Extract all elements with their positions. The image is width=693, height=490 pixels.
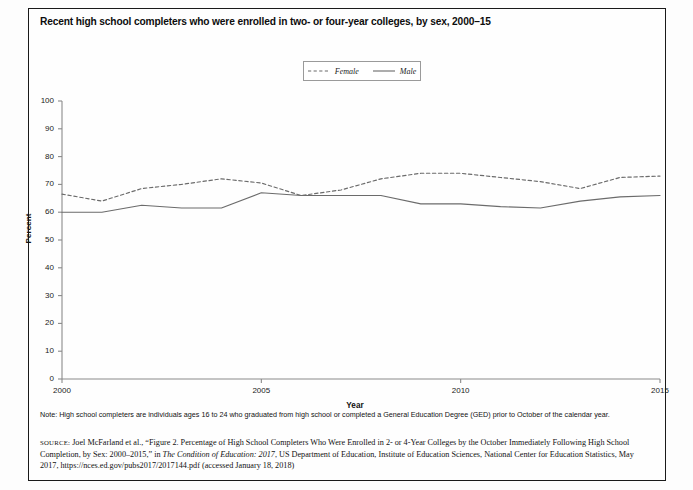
legend-entry-female: Female: [308, 67, 359, 76]
legend-label-male: Male: [400, 67, 416, 76]
legend-label-female: Female: [335, 67, 359, 76]
figure-page: Recent high school completers who were e…: [0, 0, 693, 490]
solid-line-swatch: [373, 68, 395, 74]
legend-entry-male: Male: [373, 67, 416, 76]
source-text-italic: The Condition of Education: 2017: [163, 450, 275, 459]
figure-note: Note: High school completers are individ…: [40, 410, 652, 420]
figure-title: Recent high school completers who were e…: [40, 16, 650, 28]
figure-source: source: Joel McFarland et al., “Figure 2…: [40, 437, 654, 472]
dashed-line-swatch: [308, 68, 330, 74]
chart-legend: Female Male: [303, 61, 421, 81]
source-label: source:: [40, 439, 70, 446]
